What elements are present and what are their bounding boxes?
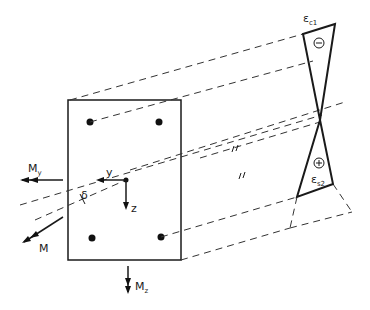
moment-resultant-arrow: [22, 217, 63, 243]
strain-extension-left: [290, 197, 297, 228]
projection-line-top-edge: [70, 34, 303, 100]
neutral-axis-line: [20, 115, 322, 205]
compression-sign-icon: [314, 38, 324, 48]
tension-sign-icon: [314, 158, 324, 168]
strain-extension-bottom: [290, 212, 352, 228]
moment-my-label: My: [28, 162, 42, 177]
projection-line-neutral: [130, 102, 345, 170]
axis-y-label: y: [106, 166, 113, 179]
projection-line-top-rebar: [90, 61, 313, 122]
axis-z-label: z: [131, 202, 137, 215]
diagram-canvas: εc1 εs2 y z δ My M Mz: [0, 0, 370, 310]
rebar-top-right: [156, 119, 163, 126]
moment-resultant-label: M: [39, 242, 49, 255]
section-diagram: εc1 εs2 y z δ My M Mz: [0, 0, 370, 310]
projection-line-mid1: [200, 122, 320, 158]
parallel-mark-lower: [239, 172, 245, 179]
rebar-bottom-left: [89, 235, 96, 242]
strain-extension-right: [333, 184, 352, 212]
moment-mz-arrow: [125, 266, 131, 294]
parallel-mark-upper: [232, 145, 238, 152]
strain-top-label: εc1: [303, 12, 317, 27]
strain-bottom-label: εs2: [311, 173, 325, 188]
angle-delta-label: δ: [81, 189, 88, 202]
axis-z-arrow: [123, 180, 129, 210]
moment-mz-label: Mz: [135, 280, 149, 295]
moment-my-arrow: [20, 177, 63, 183]
projection-line-bottom-edge: [181, 228, 290, 260]
